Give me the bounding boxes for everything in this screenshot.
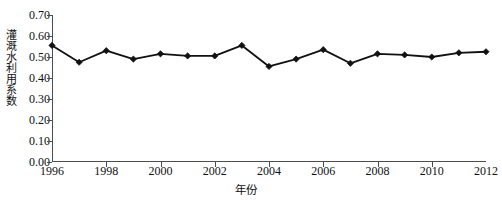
- x-axis-tick-labels: 199619982000200220042006200820102012: [52, 164, 492, 182]
- data-point-marker: [157, 51, 163, 57]
- x-tick-label: 2006: [298, 164, 348, 178]
- y-tick-mark: [47, 141, 52, 142]
- y-tick-mark: [47, 36, 52, 37]
- data-point-marker: [402, 52, 408, 58]
- y-tick-label: 0.10: [16, 135, 50, 147]
- x-tick-label: 2004: [244, 164, 294, 178]
- data-point-marker: [320, 47, 326, 53]
- data-point-marker: [429, 54, 435, 60]
- data-point-marker: [185, 53, 191, 59]
- x-tick-label: 2010: [407, 164, 457, 178]
- y-tick-mark: [47, 78, 52, 79]
- y-tick-mark: [47, 57, 52, 58]
- data-point-marker: [212, 53, 218, 59]
- x-tick-label: 1998: [81, 164, 131, 178]
- x-axis-title: 年份: [0, 181, 492, 197]
- data-point-marker: [130, 56, 136, 62]
- y-tick-label: 0.70: [16, 9, 50, 21]
- y-tick-label: 0.40: [16, 72, 50, 84]
- data-point-marker: [483, 49, 489, 55]
- x-tick-label: 2002: [190, 164, 240, 178]
- y-tick-label: 0.50: [16, 51, 50, 63]
- y-tick-label: 0.30: [16, 93, 50, 105]
- y-tick-mark: [47, 15, 52, 16]
- data-point-marker: [293, 56, 299, 62]
- y-tick-label: 0.60: [16, 30, 50, 42]
- y-tick-mark: [47, 120, 52, 121]
- plot-area: [52, 15, 486, 162]
- data-point-marker: [103, 48, 109, 54]
- x-tick-label: 2012: [461, 164, 502, 178]
- data-series: [52, 15, 486, 162]
- y-tick-mark: [47, 99, 52, 100]
- x-tick-label: 2000: [136, 164, 186, 178]
- data-point-marker: [347, 60, 353, 66]
- data-point-marker: [374, 51, 380, 57]
- data-point-marker: [456, 50, 462, 56]
- y-tick-label: 0.20: [16, 114, 50, 126]
- x-tick-label: 2008: [353, 164, 403, 178]
- y-tick-mark: [47, 162, 52, 163]
- x-tick-label: 1996: [27, 164, 77, 178]
